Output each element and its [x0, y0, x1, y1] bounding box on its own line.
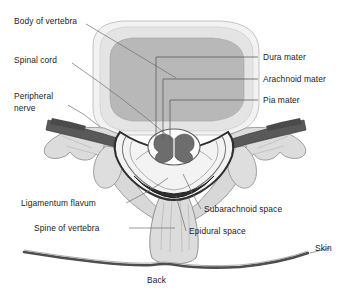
- label-pia-mater: Pia mater: [263, 95, 300, 105]
- label-skin: Skin: [315, 243, 332, 253]
- label-dura-mater: Dura mater: [263, 52, 306, 62]
- label-subarachnoid-space: Subarachnoid space: [204, 204, 282, 214]
- label-back: Back: [147, 275, 167, 285]
- label-body-of-vertebra: Body of vertebra: [14, 16, 77, 26]
- label-arachnoid-mater: Arachnoid mater: [263, 74, 326, 84]
- label-ligamentum-flavum: Ligamentum flavum: [21, 198, 96, 208]
- label-peripheral-nerve-line1: Peripheral: [14, 91, 53, 101]
- label-peripheral-nerve-line2: nerve: [14, 103, 36, 113]
- label-spinal-cord: Spinal cord: [14, 55, 57, 65]
- spinal-anatomy-diagram: Body of vertebra Spinal cord Peripheral …: [0, 0, 348, 293]
- label-spine-of-vertebra: Spine of vertebra: [34, 223, 100, 233]
- label-epidural-space: Epidural space: [189, 226, 246, 236]
